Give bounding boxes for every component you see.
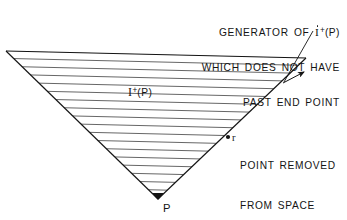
light-cone-diagram [0,0,347,220]
figure-root: GENERATOR OF I+(P) WHICH DOES NOT HAVE P… [0,0,347,220]
removed-point-marker [226,135,230,139]
